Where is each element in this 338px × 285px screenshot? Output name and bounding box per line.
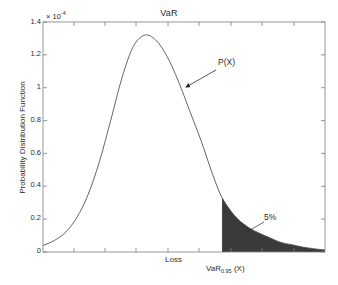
- percent-annotation-label: 5%: [264, 212, 276, 222]
- y-axis-ticks: [43, 22, 325, 252]
- pdf-annotation-arrow: [186, 70, 216, 87]
- loss-axis-label: Loss: [165, 255, 182, 264]
- plot-box-border: [43, 22, 325, 252]
- pdf-curve: [43, 35, 325, 250]
- var-quantile-axis-label: VaR0.95 (X): [206, 264, 245, 273]
- var-label-suffix: (X): [232, 264, 245, 273]
- var-label-prefix: VaR: [206, 264, 221, 273]
- var-label-subscript: 0.95: [221, 268, 232, 274]
- shaded-tail-region: [222, 198, 325, 252]
- x-axis-ticks: [74, 22, 294, 252]
- plot-area: [0, 0, 338, 285]
- var-chart-figure: VaR × 10-4 Probability Distribution Func…: [0, 0, 338, 285]
- pdf-annotation-label: P(X): [218, 57, 235, 67]
